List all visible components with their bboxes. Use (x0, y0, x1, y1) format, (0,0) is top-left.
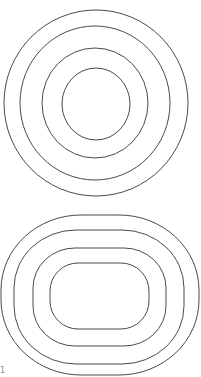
top-circle-inner (62, 68, 130, 140)
bottom-concentric-rounded-rects (1, 215, 199, 375)
top-circle-outer (4, 10, 188, 196)
diagram-canvas (0, 0, 201, 377)
bottom-rect-2 (14, 230, 184, 364)
top-circle-3 (42, 48, 148, 158)
corner-label: 1 (0, 366, 5, 376)
top-concentric-circles (4, 10, 188, 196)
bottom-rect-outer (1, 215, 199, 375)
bottom-rect-inner (50, 263, 149, 329)
